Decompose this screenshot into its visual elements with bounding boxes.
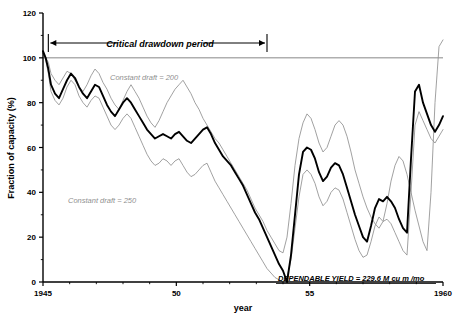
constant-draft-250-label: Constant draft = 250	[68, 196, 137, 205]
critical-drawdown-period-label: Critical drawdown period	[106, 39, 214, 49]
y-tick-label: 40	[27, 188, 36, 197]
x-tick-label: 1960	[434, 289, 452, 298]
dependable-yield-label: DEPENDABLE YIELD = 229.6 M cu m /mo	[278, 274, 425, 283]
x-tick-label: 50	[172, 289, 181, 298]
y-tick-label: 120	[23, 9, 37, 18]
chart-figure: 020406080100120194550551960 Fraction of …	[0, 0, 462, 325]
x-axis-title: year	[234, 303, 253, 313]
y-tick-label: 0	[32, 278, 37, 287]
constant-draft-200-label: Constant draft = 200	[110, 73, 179, 82]
x-tick-label: 1945	[34, 289, 52, 298]
y-tick-label: 60	[27, 144, 36, 153]
y-axis-title: Fraction of capacity (%)	[6, 97, 16, 199]
x-tick-label: 55	[305, 289, 314, 298]
y-tick-label: 100	[23, 54, 37, 63]
y-tick-label: 80	[27, 99, 36, 108]
y-tick-label: 20	[27, 233, 36, 242]
reservoir-capacity-chart: 020406080100120194550551960 Fraction of …	[0, 0, 462, 325]
